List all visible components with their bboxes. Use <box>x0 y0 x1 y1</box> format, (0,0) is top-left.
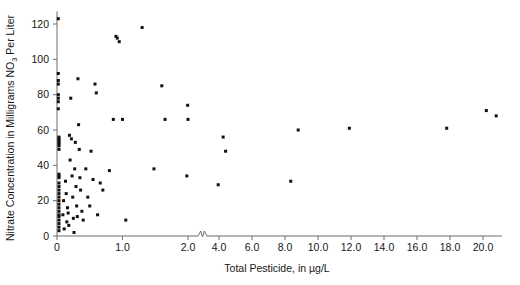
data-point <box>69 159 72 162</box>
data-point <box>485 109 488 112</box>
data-point <box>112 118 115 121</box>
data-point <box>57 226 60 229</box>
data-point <box>74 141 77 144</box>
data-point <box>95 91 98 94</box>
data-point <box>141 26 144 29</box>
data-point <box>186 104 189 107</box>
y-tick-label-120: 120 <box>31 18 49 30</box>
data-point <box>186 118 189 121</box>
x-axis-break-zigzag <box>198 231 207 237</box>
data-point <box>90 150 93 153</box>
y-tick-label-0: 0 <box>43 230 49 242</box>
y-tick-label-100: 100 <box>31 53 49 65</box>
data-point <box>101 189 104 192</box>
data-point <box>185 174 188 177</box>
data-point <box>92 178 95 181</box>
data-point <box>164 118 167 121</box>
axes-group <box>57 11 502 237</box>
data-point <box>57 229 60 232</box>
data-point <box>57 222 60 225</box>
data-point <box>66 206 69 209</box>
data-point <box>57 189 60 192</box>
x-tick-label-14.0: 14.0 <box>374 241 395 253</box>
data-point <box>70 137 73 140</box>
data-point <box>445 127 448 130</box>
data-point <box>224 150 227 153</box>
data-point <box>68 134 71 137</box>
data-point <box>57 93 60 96</box>
data-point <box>118 40 121 43</box>
data-point <box>57 215 60 218</box>
data-point <box>82 219 85 222</box>
data-point <box>57 100 60 103</box>
data-point <box>72 217 75 220</box>
data-point <box>78 148 81 151</box>
data-point <box>57 72 60 75</box>
data-point <box>73 231 76 234</box>
data-point <box>57 107 60 110</box>
data-point <box>61 213 64 216</box>
data-point <box>96 213 99 216</box>
data-point <box>57 203 60 206</box>
data-point <box>57 182 60 185</box>
data-point <box>77 123 80 126</box>
data-point <box>57 185 60 188</box>
x-tick-label-12.0: 12.0 <box>341 241 362 253</box>
y-tick-label-40: 40 <box>37 159 49 171</box>
x-tick-label-0: 0 <box>54 241 60 253</box>
x-tick-label-2.0: 2.0 <box>181 241 196 253</box>
x-tick-label-4.0: 4.0 <box>212 241 227 253</box>
data-point <box>348 127 351 130</box>
data-point <box>71 196 74 199</box>
data-point <box>76 215 79 218</box>
data-point <box>78 176 81 179</box>
x-axis-title: Total Pesticide, in µg/L <box>224 262 329 274</box>
data-point <box>80 210 83 213</box>
y-tick-label-60: 60 <box>37 124 49 136</box>
y-axis-ticks: 020406080100120 <box>31 18 57 242</box>
data-point <box>160 84 163 87</box>
data-point <box>57 199 60 202</box>
data-point <box>495 114 498 117</box>
x-tick-label-20.0: 20.0 <box>473 241 494 253</box>
data-point <box>65 192 68 195</box>
x-tick-label-8.0: 8.0 <box>278 241 293 253</box>
y-tick-label-80: 80 <box>37 88 49 100</box>
data-point <box>108 169 111 172</box>
data-point <box>57 176 60 179</box>
data-point <box>86 196 89 199</box>
scatter-chart: 01.02.04.06.08.010.012.014.016.018.020.0… <box>0 0 520 285</box>
data-point <box>124 219 127 222</box>
data-point <box>152 167 155 170</box>
data-point <box>75 204 78 207</box>
data-point <box>88 204 91 207</box>
data-point <box>222 136 225 139</box>
data-point <box>79 189 82 192</box>
data-points-layer <box>57 17 498 234</box>
data-point <box>57 196 60 199</box>
data-point <box>57 219 60 222</box>
data-point <box>75 185 78 188</box>
data-point <box>67 212 70 215</box>
data-point <box>84 167 87 170</box>
data-point <box>64 180 67 183</box>
data-point <box>65 220 68 223</box>
y-axis-title: Nitrate Concentration in Milligrams NO3 … <box>4 15 19 241</box>
data-point <box>57 144 60 147</box>
data-point <box>289 180 292 183</box>
data-point <box>71 174 74 177</box>
x-tick-label-16.0: 16.0 <box>407 241 428 253</box>
data-point <box>57 79 60 82</box>
data-point <box>57 83 60 86</box>
data-point <box>99 182 102 185</box>
data-point <box>67 224 70 227</box>
y-tick-label-20: 20 <box>37 194 49 206</box>
data-point <box>62 199 65 202</box>
x-tick-label-6.0: 6.0 <box>245 241 260 253</box>
data-point <box>76 77 79 80</box>
data-point <box>217 183 220 186</box>
data-point <box>57 192 60 195</box>
data-point <box>57 97 60 100</box>
data-point <box>57 17 60 20</box>
x-axis-ticks: 01.02.04.06.08.010.012.014.016.018.020.0 <box>54 236 493 253</box>
